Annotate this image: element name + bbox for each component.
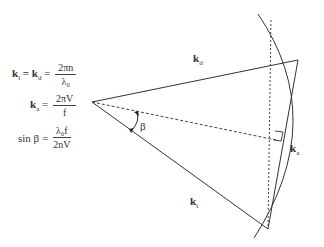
- ki-line: [92, 102, 268, 229]
- label-kd: kd: [193, 52, 203, 67]
- beta-angle-arc: [132, 113, 138, 130]
- label-ki: ki: [190, 195, 198, 210]
- vertical-dotted-line: [268, 20, 271, 229]
- equation-sin-beta: sin β = λ₀f2nV: [18, 125, 71, 150]
- dashed-bisector: [92, 102, 276, 140]
- equation-ka: ka = 2πVf: [30, 93, 76, 118]
- label-beta: β: [140, 120, 146, 132]
- wavevector-diagram: [0, 0, 324, 247]
- label-ka: ka: [290, 142, 299, 157]
- equation-ki-kd: ki = kd = 2πnλ₀: [12, 62, 76, 87]
- momentum-arc: [254, 14, 293, 238]
